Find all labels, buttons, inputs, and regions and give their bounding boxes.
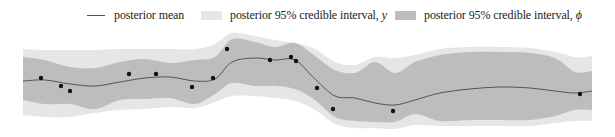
data-point xyxy=(294,59,298,63)
plot-area xyxy=(0,0,615,137)
data-point xyxy=(578,92,582,96)
data-point xyxy=(127,72,131,76)
data-point xyxy=(289,55,293,59)
data-point xyxy=(154,72,158,76)
data-point xyxy=(68,89,72,93)
data-point xyxy=(225,47,229,51)
data-point xyxy=(211,76,215,80)
data-point xyxy=(391,109,395,113)
data-point xyxy=(315,86,319,90)
data-point xyxy=(59,84,63,88)
data-point xyxy=(190,85,194,89)
data-point xyxy=(268,58,272,62)
data-point xyxy=(39,76,43,80)
data-point xyxy=(331,107,335,111)
